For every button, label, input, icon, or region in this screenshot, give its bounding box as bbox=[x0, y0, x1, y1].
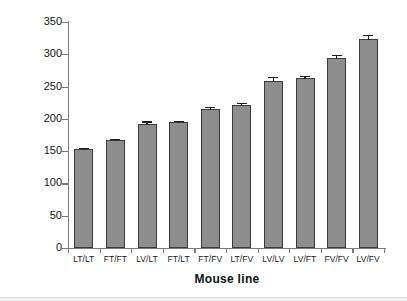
y-axis-tick-label: 0 bbox=[22, 241, 62, 253]
y-axis-tick bbox=[62, 22, 68, 23]
x-axis-tick-label: FT/FV bbox=[194, 254, 226, 264]
x-axis-tick-label: FV/FV bbox=[321, 254, 353, 264]
y-axis-tick bbox=[62, 216, 68, 217]
bar bbox=[74, 149, 93, 248]
x-axis-tick bbox=[68, 248, 69, 253]
x-axis-tick bbox=[226, 248, 227, 253]
bar bbox=[106, 140, 125, 248]
y-axis-tick-label: 50 bbox=[22, 209, 62, 221]
error-bar-cap bbox=[363, 35, 373, 36]
x-axis-tick bbox=[100, 248, 101, 253]
error-bar-cap bbox=[174, 121, 184, 122]
error-bar-cap bbox=[110, 139, 120, 140]
y-axis-tick-label: 150 bbox=[22, 144, 62, 156]
bar bbox=[327, 58, 346, 248]
y-axis-tick-label: 300 bbox=[22, 47, 62, 59]
bar bbox=[359, 39, 378, 248]
bar bbox=[138, 124, 157, 248]
bar bbox=[201, 109, 220, 248]
error-bar-cap bbox=[237, 103, 247, 104]
bar bbox=[169, 122, 188, 248]
y-axis-line bbox=[68, 21, 69, 249]
error-bar-cap bbox=[300, 76, 310, 77]
y-axis-tick-label: 250 bbox=[22, 80, 62, 92]
x-axis-tick-label: LT/FV bbox=[226, 254, 258, 264]
bar bbox=[232, 105, 251, 248]
bar bbox=[264, 81, 283, 248]
bar bbox=[296, 78, 315, 248]
x-axis-tick bbox=[194, 248, 195, 253]
error-bar-cap bbox=[268, 77, 278, 78]
x-axis-tick bbox=[384, 248, 385, 253]
error-bar-cap bbox=[205, 107, 215, 108]
y-axis-tick bbox=[62, 87, 68, 88]
y-axis-tick bbox=[62, 119, 68, 120]
x-axis-tick-label: LV/LT bbox=[131, 254, 163, 264]
x-axis-tick-label: LV/LV bbox=[258, 254, 290, 264]
figure-bottom-edge bbox=[0, 297, 407, 301]
x-axis-tick bbox=[352, 248, 353, 253]
y-axis-tick bbox=[62, 183, 68, 184]
error-bar-cap bbox=[332, 55, 342, 56]
x-axis-tick-label: LV/FT bbox=[289, 254, 321, 264]
error-bar-cap bbox=[79, 148, 89, 149]
x-axis-tick-label: LV/FV bbox=[352, 254, 384, 264]
x-axis-tick bbox=[163, 248, 164, 253]
x-axis-tick-label: FT/LT bbox=[163, 254, 195, 264]
y-axis-tick-label: 350 bbox=[22, 15, 62, 27]
x-axis-title: Mouse line bbox=[68, 272, 386, 286]
x-axis-tick bbox=[321, 248, 322, 253]
y-axis-tick bbox=[62, 54, 68, 55]
y-axis-tick-label: 200 bbox=[22, 112, 62, 124]
x-axis-tick bbox=[258, 248, 259, 253]
x-axis-tick bbox=[289, 248, 290, 253]
chart-figure: Incubation time (days) 05010015020025030… bbox=[0, 0, 407, 301]
x-axis-tick-label: LT/LT bbox=[68, 254, 100, 264]
x-axis-tick-label: FT/FT bbox=[100, 254, 132, 264]
y-axis-tick bbox=[62, 151, 68, 152]
error-bar-cap bbox=[142, 121, 152, 122]
y-axis-tick-label: 100 bbox=[22, 176, 62, 188]
x-axis-tick bbox=[131, 248, 132, 253]
